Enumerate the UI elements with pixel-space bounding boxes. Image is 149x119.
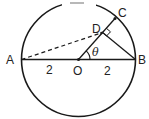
label-c: C bbox=[118, 6, 127, 20]
label-ob-length: 2 bbox=[104, 64, 111, 78]
label-o: O bbox=[73, 64, 82, 78]
label-a: A bbox=[6, 53, 14, 67]
label-b: B bbox=[138, 53, 146, 67]
geometry-diagram: A B O C D 2 2 θ bbox=[0, 0, 149, 119]
faded-mark bbox=[70, 2, 84, 4]
angle-arc bbox=[86, 51, 90, 60]
label-ao-length: 2 bbox=[46, 63, 53, 77]
label-d: D bbox=[92, 22, 101, 36]
point-c bbox=[114, 17, 117, 20]
label-theta: θ bbox=[92, 46, 99, 59]
point-o bbox=[77, 58, 80, 61]
